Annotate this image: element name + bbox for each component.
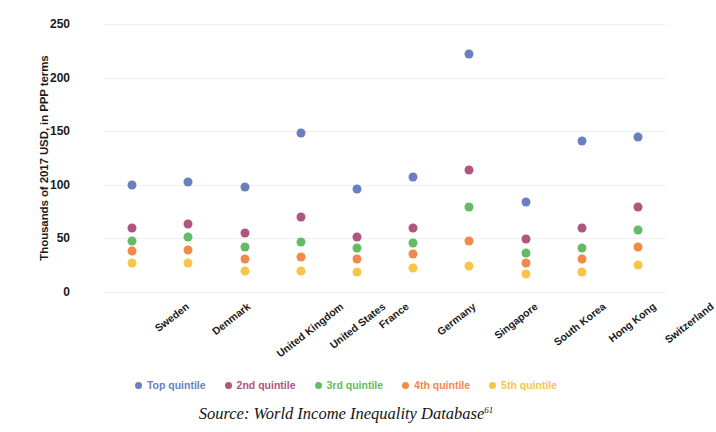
data-point xyxy=(409,264,418,273)
data-point xyxy=(633,242,642,251)
legend-item-top-quintile[interactable]: Top quintile xyxy=(135,379,206,391)
legend-label: 5th quintile xyxy=(501,379,557,391)
data-point xyxy=(352,244,361,253)
data-point xyxy=(296,129,305,138)
legend-item-5th-quintile[interactable]: 5th quintile xyxy=(489,379,557,391)
legend-swatch-icon xyxy=(402,382,409,389)
y-axis-title: Thousands of 2017 USD, in PPP terms xyxy=(38,28,50,288)
data-point xyxy=(465,165,474,174)
legend-label: Top quintile xyxy=(147,379,206,391)
legend-swatch-icon xyxy=(315,382,322,389)
data-point xyxy=(577,223,586,232)
data-point xyxy=(352,185,361,194)
data-point xyxy=(128,247,137,256)
y-axis-tick-label: 200 xyxy=(30,71,70,85)
data-point xyxy=(633,203,642,212)
data-point xyxy=(184,177,193,186)
data-point xyxy=(296,212,305,221)
plot-area: 050100150200250 xyxy=(104,24,666,292)
data-point xyxy=(521,197,530,206)
data-point xyxy=(521,259,530,268)
data-point xyxy=(240,182,249,191)
y-axis-tick-label: 150 xyxy=(30,124,70,138)
data-point xyxy=(409,238,418,247)
legend-label: 2nd quintile xyxy=(237,379,296,391)
data-point xyxy=(128,259,137,268)
data-point xyxy=(184,246,193,255)
legend-item-4th-quintile[interactable]: 4th quintile xyxy=(402,379,470,391)
data-point xyxy=(409,250,418,259)
y-axis-tick-label: 100 xyxy=(30,178,70,192)
x-axis-tick-label-switzerland: Switzerland xyxy=(662,300,715,345)
chart-legend: Top quintile2nd quintile3rd quintile4th … xyxy=(0,379,692,391)
x-axis-tick-label-singapore: Singapore xyxy=(492,300,540,341)
y-axis-tick-label: 0 xyxy=(30,285,70,299)
data-point xyxy=(296,252,305,261)
x-axis-tick-label-germany: Germany xyxy=(435,300,478,337)
legend-swatch-icon xyxy=(225,382,232,389)
data-point xyxy=(521,249,530,258)
data-point xyxy=(465,50,474,59)
legend-item-3rd-quintile[interactable]: 3rd quintile xyxy=(315,379,384,391)
data-point xyxy=(465,236,474,245)
x-axis-tick-label-south-korea: South Korea xyxy=(551,300,608,348)
data-point xyxy=(240,266,249,275)
data-point xyxy=(465,203,474,212)
data-point xyxy=(633,132,642,141)
data-point xyxy=(240,254,249,263)
data-point xyxy=(409,173,418,182)
data-point xyxy=(184,259,193,268)
data-point xyxy=(521,235,530,244)
data-point xyxy=(633,261,642,270)
gridline xyxy=(104,78,666,79)
x-axis-tick-label-denmark: Denmark xyxy=(210,300,253,337)
data-point xyxy=(128,223,137,232)
legend-item-2nd-quintile[interactable]: 2nd quintile xyxy=(225,379,296,391)
data-point xyxy=(577,254,586,263)
y-axis-tick-label: 250 xyxy=(30,17,70,31)
data-point xyxy=(352,254,361,263)
x-axis-tick-label-sweden: Sweden xyxy=(153,300,192,334)
x-axis-tick-label-hong-kong: Hong Kong xyxy=(606,300,658,344)
gridline xyxy=(104,24,666,25)
gridline xyxy=(104,292,666,293)
legend-label: 4th quintile xyxy=(414,379,470,391)
data-point xyxy=(184,220,193,229)
source-caption: Source: World Income Inequality Database… xyxy=(0,404,692,424)
data-point xyxy=(577,267,586,276)
data-point xyxy=(184,233,193,242)
data-point xyxy=(521,269,530,278)
legend-swatch-icon xyxy=(489,382,496,389)
data-point xyxy=(577,244,586,253)
data-point xyxy=(128,236,137,245)
data-point xyxy=(352,233,361,242)
data-point xyxy=(240,229,249,238)
data-point xyxy=(577,136,586,145)
data-point xyxy=(296,266,305,275)
data-point xyxy=(633,225,642,234)
data-point xyxy=(409,223,418,232)
data-point xyxy=(352,267,361,276)
data-point xyxy=(128,180,137,189)
y-axis-tick-label: 50 xyxy=(30,231,70,245)
legend-label: 3rd quintile xyxy=(327,379,384,391)
source-caption-footnote: 61 xyxy=(484,405,493,415)
source-caption-text: Source: World Income Inequality Database xyxy=(199,404,485,423)
data-point xyxy=(240,242,249,251)
legend-swatch-icon xyxy=(135,382,142,389)
data-point xyxy=(465,262,474,271)
gridline xyxy=(104,131,666,132)
data-point xyxy=(296,237,305,246)
